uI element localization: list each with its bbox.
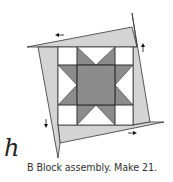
arrow-right-icon (128, 131, 137, 135)
arrow-left-icon (55, 33, 64, 37)
step-label: h (4, 136, 19, 160)
arrow-down-icon (44, 119, 48, 128)
quilt-block-diagram (0, 0, 173, 160)
top-strip (27, 27, 137, 47)
left-strip (38, 47, 60, 158)
right-strip (132, 13, 150, 125)
arrow-up-icon (141, 43, 145, 52)
figure-caption: B Block assembly. Make 21. (27, 162, 157, 173)
star-center-square (77, 65, 115, 105)
